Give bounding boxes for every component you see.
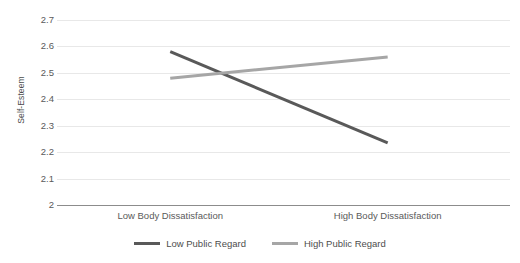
y-axis-tick-label: 2.3 bbox=[26, 121, 54, 131]
line-chart: Self-Esteem 2.72.62.52.42.32.22.12 Low B… bbox=[0, 0, 520, 263]
x-axis-tick-label: High Body Dissatisfaction bbox=[334, 210, 442, 221]
y-axis-tick-label: 2.2 bbox=[26, 147, 54, 157]
series-lines bbox=[57, 20, 510, 205]
legend-line-icon bbox=[272, 242, 298, 245]
legend-item[interactable]: Low Public Regard bbox=[134, 238, 246, 249]
legend-item-label: High Public Regard bbox=[304, 238, 386, 249]
legend-item[interactable]: High Public Regard bbox=[272, 238, 386, 249]
y-axis-tick-label: 2 bbox=[26, 200, 54, 210]
y-axis-tick-label: 2.6 bbox=[26, 42, 54, 52]
y-axis-title: Self-Esteem bbox=[16, 60, 26, 140]
plot-area bbox=[57, 20, 510, 205]
legend-item-label: Low Public Regard bbox=[166, 238, 246, 249]
series-line bbox=[170, 52, 387, 143]
y-axis-tick-label: 2.7 bbox=[26, 15, 54, 25]
y-axis-tick-label: 2.5 bbox=[26, 68, 54, 78]
x-axis-line bbox=[57, 205, 510, 206]
legend-line-icon bbox=[134, 242, 160, 245]
x-axis-tick-labels: Low Body DissatisfactionHigh Body Dissat… bbox=[57, 208, 510, 228]
chart-legend: Low Public RegardHigh Public Regard bbox=[0, 238, 520, 249]
series-line bbox=[170, 57, 387, 78]
x-axis-tick-label: Low Body Dissatisfaction bbox=[117, 210, 223, 221]
y-axis-tick-label: 2.1 bbox=[26, 174, 54, 184]
y-axis-tick-labels: 2.72.62.52.42.32.22.12 bbox=[26, 0, 54, 215]
y-axis-tick-label: 2.4 bbox=[26, 95, 54, 105]
